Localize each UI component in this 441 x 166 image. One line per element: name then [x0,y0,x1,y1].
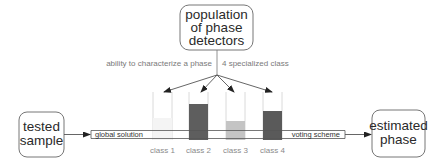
class-1-label: class 1 [150,146,175,155]
annotation-left: ability to characterize a phase [106,59,212,68]
global-solution-label: global solution [95,130,143,139]
class-bars [153,92,282,140]
class-2-fill [189,104,208,140]
phase-detection-diagram: population of phase detectors ability to… [0,0,441,166]
solution-band: global solution voting scheme [91,130,345,139]
class-3-label: class 3 [223,146,248,155]
estimated-phase-line1: estimated [369,118,428,133]
tested-sample-node: tested sample [19,112,64,157]
tested-sample-line1: tested [23,119,60,134]
class-4-label: class 4 [260,146,285,155]
class-1-bar [153,92,172,140]
population-node-line3: detectors [189,33,245,48]
class-3-bar [226,92,245,140]
class-2-label: class 2 [186,146,211,155]
class-2-bar [189,92,208,140]
estimated-phase-node: estimated phase [369,110,428,157]
class-4-fill [263,111,282,140]
estimated-phase-line2: phase [380,132,417,147]
tested-sample-line2: sample [20,133,64,148]
class-1-fill [153,118,172,140]
voting-scheme-label: voting scheme [292,130,340,139]
population-node: population of phase detectors [180,5,253,50]
class-4-bar [263,92,282,140]
class-labels: class 1 class 2 class 3 class 4 [150,146,285,155]
fan-out-arrows [164,75,272,92]
annotation-right: 4 specialized class [222,59,289,68]
